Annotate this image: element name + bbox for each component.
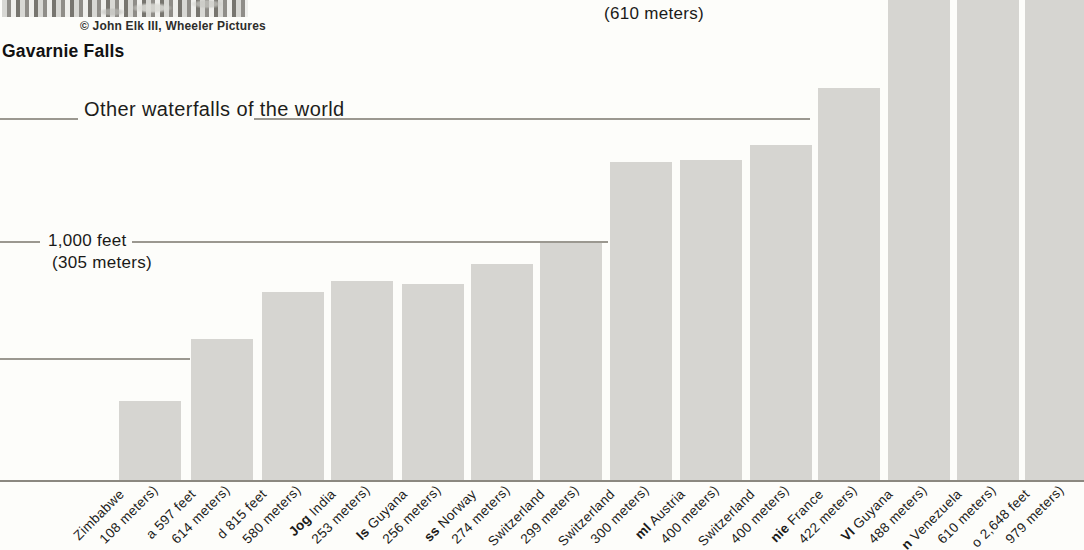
bar-labels-layer: Zimbabwe108 meters)a 597 feet614 meters)… [0,0,1084,550]
waterfall-heights-chart: © John Elk III, Wheeler Pictures Gavarni… [0,0,1084,550]
